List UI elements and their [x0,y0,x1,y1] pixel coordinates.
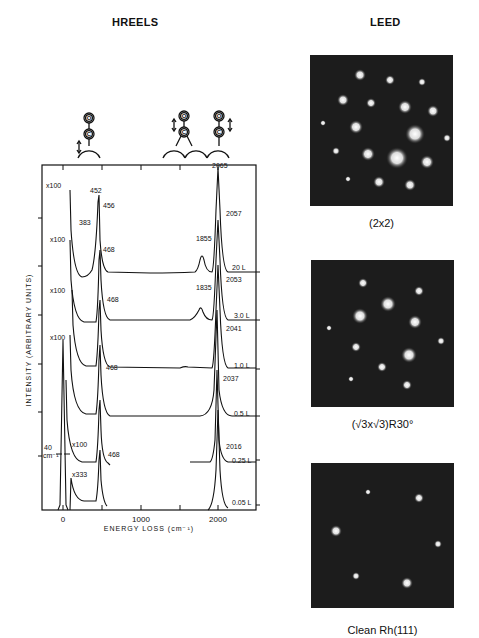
exposure-label: 0.5 L [234,410,250,417]
peak-label: 468 [103,246,115,253]
co-bridge-schematic [163,111,232,158]
oxygen-atom-label: O [217,113,222,119]
x-tick-label: 0 [61,515,66,524]
spectrum-20L [70,168,256,277]
leed-caption-2x2: (2x2) [310,217,453,229]
peak-label: 456 [103,202,115,209]
peak-label: 2053 [226,276,242,283]
leed-title: LEED [370,16,401,28]
x-tick-label: 2000 [209,515,227,524]
spectrum-005L [70,410,228,510]
multiplier-label: x333 [72,471,87,478]
exposure-label: 0.25 L [232,457,252,464]
leed-pattern-root3 [311,260,454,407]
fwhm-value: 40 [44,444,52,451]
carbon-atom-label: C [182,129,187,135]
exposure-label: 3.0 L [234,312,250,319]
hreels-title: HREELS [112,16,158,28]
peak-label: 383 [79,219,91,226]
multiplier-label: x100 [50,287,65,294]
multiplier-label: x100 [50,334,65,341]
fwhm-unit: cm⁻¹ [43,452,59,459]
peak-label: 2037 [223,375,239,382]
leed-caption-clean-rh111: Clean Rh(111) [311,624,454,636]
leed-pattern-clean-rh111 [311,463,454,608]
peak-label: 2065 [212,162,228,169]
spectrum-3L [70,220,256,322]
peak-label: 468 [106,364,118,371]
spectrum-025L [66,370,256,465]
x-axis-label: ENERGY LOSS (cm⁻¹) [104,525,194,533]
peak-label: 468 [107,296,119,303]
oxygen-atom-label: O [182,113,187,119]
co-adsorption-schematics: O C O C O C [40,100,270,162]
leed-pattern-2x2 [310,55,453,206]
oxygen-atom-label: O [87,115,92,121]
multiplier-label: x100 [50,236,65,243]
x-tick-label: 1000 [132,515,150,524]
hreels-spectra-chart: x100 x100 x100 x100 x100 x333 452 456 38… [0,160,300,590]
peak-label: 452 [90,187,102,194]
leed-caption-root3: (√3x√3)R30° [311,418,454,430]
multiplier-label: x100 [46,182,61,189]
carbon-atom-label: C [87,131,92,137]
exposure-label: 20 L [232,264,246,271]
y-axis-label: INTENSITY (ARBITRARY UNITS) [25,274,33,407]
peak-label: 1835 [196,284,212,291]
exposure-label: 0.05 L [232,499,252,506]
peak-label: 468 [108,451,120,458]
peak-label: 2016 [226,443,242,450]
peak-label: 1855 [196,235,212,242]
peak-label: 2041 [226,325,242,332]
carbon-atom-label: C [217,129,222,135]
exposure-label: 1.0 L [234,362,250,369]
multiplier-label: x100 [72,441,87,448]
elastic-peak [58,340,68,510]
peak-label: 2057 [226,210,242,217]
